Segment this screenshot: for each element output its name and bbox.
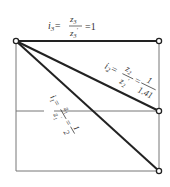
pivot-node bbox=[13, 38, 18, 43]
svg-text:=1: =1 bbox=[85, 21, 96, 32]
end-node-top bbox=[156, 38, 161, 43]
svg-text:z2: z2 bbox=[123, 63, 135, 76]
ratio-line-i1 bbox=[16, 41, 159, 171]
svg-text:=: = bbox=[63, 118, 74, 127]
svg-text:z3': z3' bbox=[69, 27, 79, 39]
svg-text:1: 1 bbox=[145, 75, 153, 86]
end-node-middle bbox=[156, 108, 161, 113]
svg-text:z1': z1' bbox=[50, 110, 63, 122]
label-i3: i3= z3 z3' =1 bbox=[48, 14, 96, 39]
end-node-bottom bbox=[156, 168, 161, 173]
svg-text:1.41: 1.41 bbox=[136, 85, 155, 101]
svg-text:z1: z1 bbox=[61, 104, 73, 115]
svg-text:i3=: i3= bbox=[48, 20, 61, 33]
svg-text:i2=: i2= bbox=[102, 60, 119, 77]
svg-text:z3: z3 bbox=[69, 14, 77, 25]
svg-text:i1=: i1= bbox=[47, 93, 62, 109]
label-i2: i2= z2 z2' = 1 1.41 bbox=[100, 55, 161, 102]
svg-text:z2': z2' bbox=[117, 75, 131, 90]
svg-text:2: 2 bbox=[62, 129, 72, 137]
ratio-diagram: i3= z3 z3' =1 i2= z2 z2' = 1 1.41 i1= z1… bbox=[0, 0, 170, 187]
